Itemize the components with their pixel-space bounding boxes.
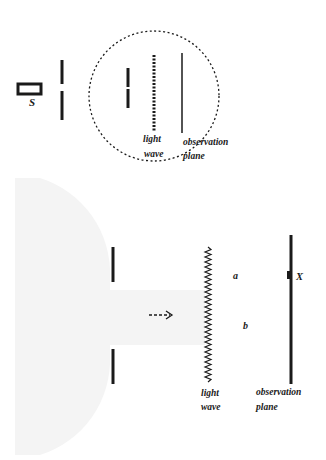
source-label: S	[29, 96, 35, 108]
top-plane-label-line1: observation	[183, 137, 228, 147]
top-plane-label-line2: plane	[182, 151, 205, 161]
top-panel: S light wave observation plane	[18, 31, 228, 161]
bottom-plane-label-line2: plane	[255, 402, 278, 412]
bottom-plane-label-line1: observation	[256, 387, 301, 397]
point-x-label: X	[295, 271, 304, 282]
light-source-box	[18, 84, 41, 94]
top-wave-label-line1: light	[143, 134, 161, 144]
point-x-marker	[287, 271, 292, 279]
diffraction-diagram: S light wave observation plane light wav…	[0, 0, 326, 460]
top-wave-label-line2: wave	[144, 149, 164, 159]
point-b-label: b	[243, 320, 248, 331]
light-wave-wavy	[205, 247, 211, 382]
magnified-region-shading	[15, 178, 205, 455]
bottom-wave-label-line1: light	[201, 388, 219, 398]
point-a-label: a	[233, 270, 238, 281]
bottom-wave-label-line2: wave	[201, 402, 221, 412]
